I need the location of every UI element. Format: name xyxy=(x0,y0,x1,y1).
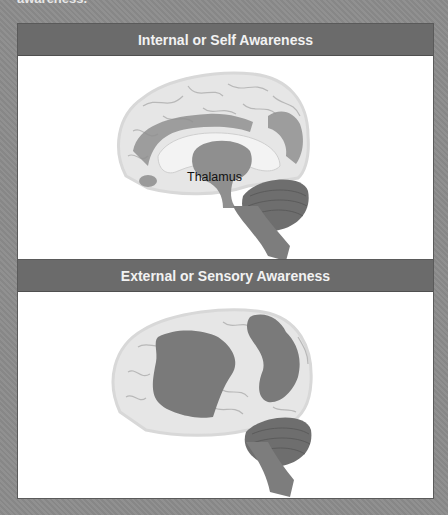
internal-awareness-panel: Internal or Self Awareness xyxy=(17,23,434,260)
panel-header-external: External or Sensory Awareness xyxy=(18,260,433,292)
brain-medial-figure: Thalamus xyxy=(18,56,433,261)
external-awareness-panel: External or Sensory Awareness xyxy=(17,259,434,499)
brain-lateral-figure xyxy=(18,292,433,497)
top-caption-fragment: awareness. xyxy=(17,0,87,6)
brain-medial-icon xyxy=(18,56,433,261)
brain-lateral-icon xyxy=(18,292,433,500)
thalamus-label: Thalamus xyxy=(187,170,242,184)
panel-header-internal: Internal or Self Awareness xyxy=(18,24,433,56)
